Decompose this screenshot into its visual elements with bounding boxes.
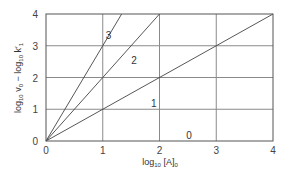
series-label-2: 2: [131, 55, 137, 66]
series-label-0: 0: [186, 130, 192, 141]
x-tick-label: 1: [100, 145, 106, 156]
y-axis-ticks: 01234: [32, 9, 38, 147]
x-tick-label: 0: [43, 145, 49, 156]
x-tick-label: 2: [157, 145, 163, 156]
series-labels: 3210: [106, 30, 193, 142]
y-tick-label: 1: [32, 104, 38, 115]
x-tick-label: 4: [270, 145, 276, 156]
y-tick-label: 2: [32, 73, 38, 84]
series-label-3: 3: [106, 30, 112, 41]
y-tick-label: 0: [32, 136, 38, 147]
y-axis-title: log10 v0 − log10 k′1: [13, 42, 24, 113]
x-tick-label: 3: [213, 145, 219, 156]
y-tick-label: 3: [32, 41, 38, 52]
y-tick-label: 4: [32, 9, 38, 20]
chart: 01234 01234 3210 log10 [A]0 log10 v0 − l…: [0, 0, 292, 178]
x-axis-title: log10 [A]0: [142, 157, 178, 168]
series-label-1: 1: [151, 98, 157, 109]
x-axis-ticks: 01234: [43, 145, 276, 156]
